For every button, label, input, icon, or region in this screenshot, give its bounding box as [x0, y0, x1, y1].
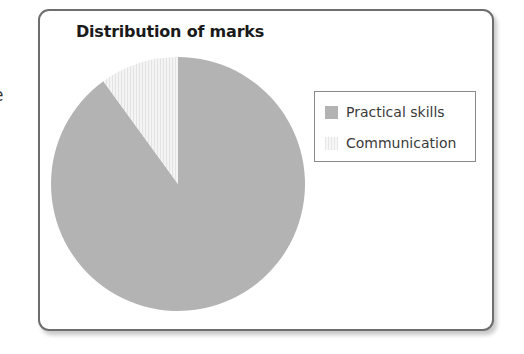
pie-chart: [40, 11, 492, 329]
chart-legend: Practical skills Communication: [314, 91, 476, 162]
legend-swatch-solid-icon: [325, 106, 338, 119]
legend-swatch-striped-icon: [325, 137, 338, 150]
chart-panel: Distribution of marks Practical skills C…: [38, 9, 494, 331]
legend-item-practical-skills: Practical skills: [325, 102, 445, 122]
cropped-text-fragment: e: [0, 87, 3, 104]
legend-label: Practical skills: [346, 104, 445, 120]
legend-label: Communication: [346, 135, 456, 151]
legend-item-communication: Communication: [325, 133, 456, 153]
pie-slices: [51, 57, 305, 311]
